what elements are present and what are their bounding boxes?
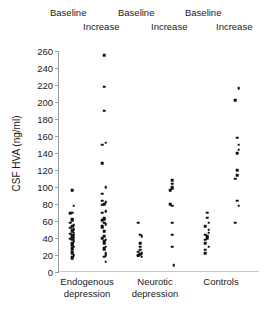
y-tick-mark [55,170,59,171]
data-point [105,210,108,213]
data-point [238,204,241,207]
data-point [171,221,174,224]
data-point [139,245,142,248]
data-point [101,162,104,165]
data-point [236,152,239,155]
y-tick-mark [55,102,59,103]
data-point [236,136,239,139]
plot-area: 020406080100120140160180200220240260 [58,51,259,272]
y-tick-label: 60 [42,216,53,227]
data-point [204,252,207,255]
data-point [103,54,106,57]
y-tick-label: 120 [37,165,53,176]
column-header-increase-5: Increase [216,21,252,32]
data-point [103,230,106,233]
y-tick-label: 40 [42,233,53,244]
data-point [101,193,104,196]
scatter-plot-figure: CSF HVA (ng/ml) BaselineIncreaseBaseline… [0,0,265,309]
y-tick-mark [55,68,59,69]
data-point [105,261,108,264]
y-tick-label: 80 [42,199,53,210]
data-point [71,189,74,192]
y-tick-label: 180 [37,114,53,125]
data-point [208,232,211,235]
y-tick-mark [55,153,59,154]
group-label-line1: Controls [181,276,261,288]
data-point [171,204,174,207]
column-header-baseline-2: Baseline [118,7,154,18]
y-tick-mark [55,85,59,86]
data-point [234,221,237,224]
data-point [206,211,209,214]
data-point [137,221,140,224]
data-point [71,257,74,260]
data-point [204,242,207,245]
data-point [101,199,104,202]
data-point [103,249,106,252]
data-point [101,237,104,240]
data-point [101,227,104,230]
y-tick-mark [55,119,59,120]
column-header-increase-1: Increase [83,21,119,32]
data-point [236,174,239,177]
y-tick-label: 220 [37,80,53,91]
data-point [204,225,207,228]
y-tick-label: 100 [37,182,53,193]
data-point [238,143,241,146]
data-point [171,245,174,248]
data-point [238,87,241,90]
data-point [101,211,104,214]
data-point [171,233,174,236]
group-label-line2: depression [115,288,195,300]
data-point [234,177,237,180]
data-point [171,179,174,182]
data-point [171,182,174,185]
y-tick-mark [55,204,59,205]
data-point [101,204,104,207]
data-point [69,221,72,224]
data-point [103,85,106,88]
y-axis-title: CSF HVA (ng/ml) [11,89,22,219]
data-point [137,255,140,258]
data-point [238,148,241,151]
data-point [103,255,106,258]
y-tick-mark [55,187,59,188]
y-tick-label: 240 [37,63,53,74]
y-tick-mark [55,221,59,222]
data-point [141,255,144,258]
data-point [103,242,106,245]
data-point [206,216,209,219]
data-point [169,189,172,192]
data-point [103,109,106,112]
y-tick-mark [55,238,59,239]
data-point [73,204,76,207]
y-tick-mark [55,51,59,52]
data-point [236,169,239,172]
y-tick-mark [55,255,59,256]
data-point [139,242,142,245]
data-point [101,143,104,146]
y-tick-label: 140 [37,148,53,159]
data-point [204,249,207,252]
y-tick-label: 200 [37,97,53,108]
data-point [105,186,108,189]
data-point [105,223,108,226]
data-point [208,221,211,224]
column-header-baseline-4: Baseline [185,7,221,18]
data-point [105,142,108,145]
data-point [208,245,211,248]
y-tick-label: 20 [42,250,53,261]
y-tick-mark [55,136,59,137]
data-point [141,235,144,238]
data-point [69,212,72,215]
column-header-baseline-0: Baseline [50,7,86,18]
column-header-increase-3: Increase [151,21,187,32]
y-tick-mark [55,272,59,273]
data-point [173,264,176,267]
data-point [204,238,207,241]
y-tick-label: 260 [37,46,53,57]
data-point [208,228,211,231]
data-point [234,99,237,102]
y-tick-label: 160 [37,131,53,142]
group-label-controls: Controls [181,276,261,288]
